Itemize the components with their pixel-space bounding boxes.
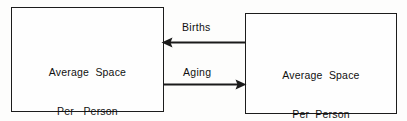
edge-label-aging: Aging — [183, 66, 211, 78]
edge-aging-arrow[interactable] — [164, 80, 247, 90]
diagram-canvas: Average Space Per Person aged 0 - 14 Ave… — [0, 0, 407, 121]
edge-births-arrow[interactable] — [162, 38, 246, 48]
edge-arrows — [0, 0, 407, 121]
edge-label-births: Births — [182, 21, 211, 33]
